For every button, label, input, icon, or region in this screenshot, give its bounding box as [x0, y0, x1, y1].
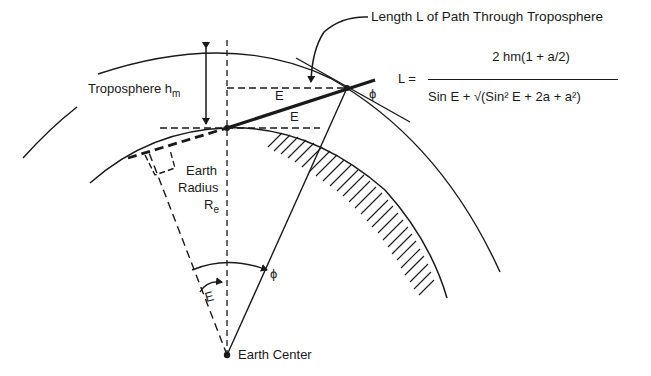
path-line: [227, 80, 375, 128]
phi-angle-arc: [192, 263, 267, 271]
radius-subscript: e: [213, 204, 219, 215]
formula-numerator: 2 hm(1 + a/2): [438, 50, 624, 63]
earth-center-point: [224, 352, 230, 358]
ground-point: [224, 125, 230, 131]
elevation-label-lower: E: [290, 110, 299, 123]
troposphere-subscript: m: [172, 88, 180, 99]
phi-label-center: ϕ: [270, 267, 277, 280]
earth-hatching: [268, 133, 434, 295]
earth-radius-label-line2: Radius: [178, 181, 218, 194]
formula-lhs: L =: [398, 72, 416, 85]
earth-radius-label-line1: Earth: [186, 164, 217, 177]
formula-denominator: Sin E + √(Sin² E + 2a + a²): [428, 90, 581, 103]
troposphere-tangent: [296, 58, 410, 122]
exit-point: [344, 85, 350, 91]
fraction-bar: [428, 79, 618, 80]
callout-leader: [311, 17, 368, 82]
elevation-label-upper: E: [275, 89, 284, 102]
outer-arc-fragment: [23, 107, 77, 158]
tangent-dashed: [128, 128, 227, 158]
radius-symbol: R: [204, 197, 213, 212]
troposphere-text: Troposphere h: [88, 81, 172, 96]
path-length-formula: L = 2 hm(1 + a/2) Sin E + √(Sin² E + 2a …: [398, 50, 624, 115]
length-callout-label: Length L of Path Through Troposphere: [371, 10, 603, 24]
phi-label-top: ϕ: [369, 87, 376, 100]
earth-radius-label-line3: Re: [204, 198, 219, 211]
troposphere-label: Troposphere hm: [88, 82, 180, 95]
earth-center-label: Earth Center: [238, 348, 312, 361]
